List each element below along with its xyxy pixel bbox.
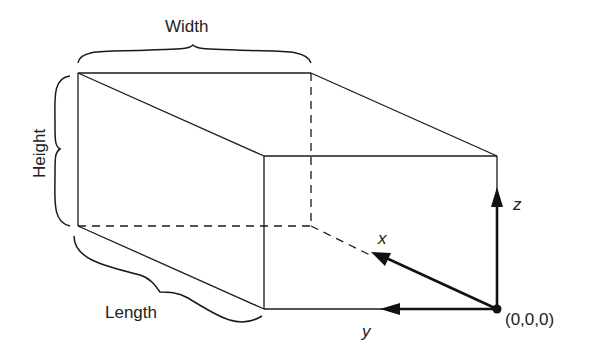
z-arrowhead-icon xyxy=(491,187,503,207)
length-label: Length xyxy=(105,303,157,322)
y-arrowhead-icon xyxy=(380,303,400,315)
z-axis-label: z xyxy=(512,195,522,214)
height-brace xyxy=(55,76,70,226)
length-brace xyxy=(74,236,262,322)
top-left-depth-edge xyxy=(78,73,264,156)
x-axis xyxy=(384,257,497,309)
height-label: Height xyxy=(30,129,49,178)
y-axis-label: y xyxy=(361,322,372,341)
top-right-depth-edge xyxy=(311,73,497,156)
x-arrowhead-icon xyxy=(371,252,391,266)
bottom-left-depth-edge xyxy=(78,226,264,309)
origin-label: (0,0,0) xyxy=(505,310,554,329)
depth-edges xyxy=(78,73,497,309)
back-face xyxy=(78,73,311,226)
width-brace xyxy=(78,45,311,63)
origin-point xyxy=(493,305,502,314)
hidden-edges xyxy=(78,73,372,256)
coordinate-axes xyxy=(371,187,503,315)
width-label: Width xyxy=(165,17,208,36)
hidden-depth-edge xyxy=(311,226,372,256)
prism-diagram: Width Height Length z x y (0,0,0) xyxy=(0,0,591,364)
x-axis-label: x xyxy=(377,229,387,248)
